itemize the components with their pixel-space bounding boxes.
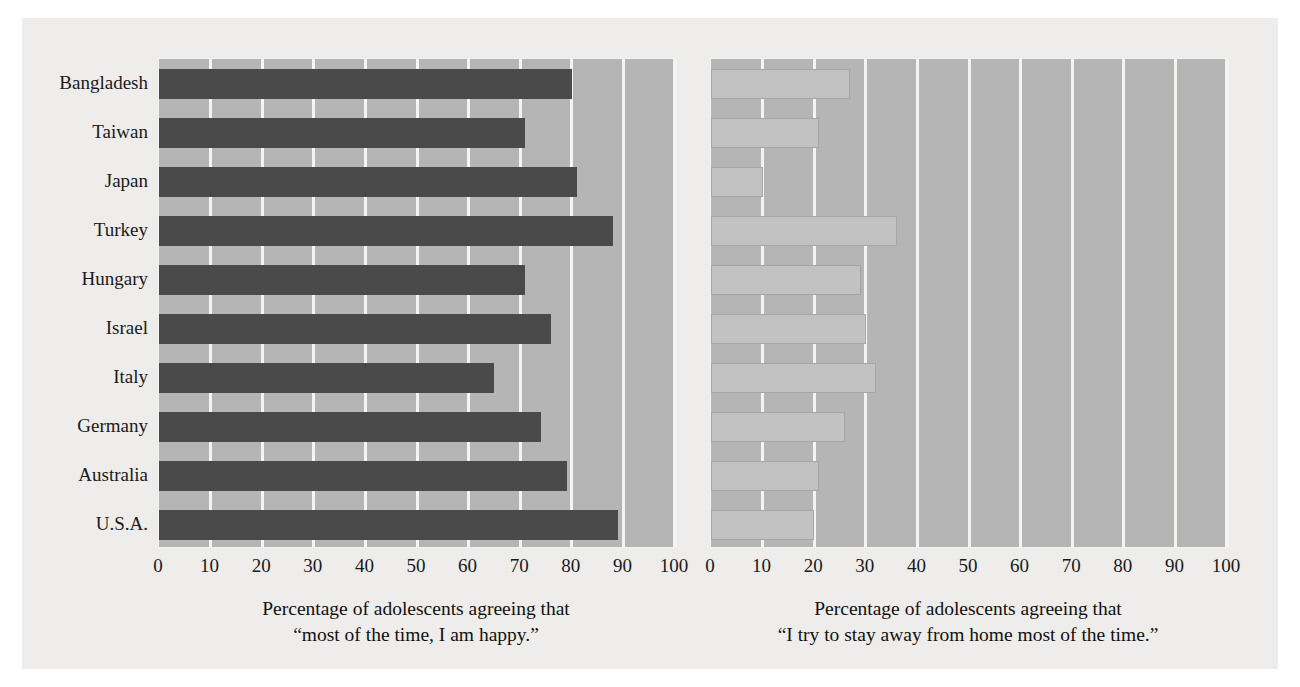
category-label: U.S.A. bbox=[96, 514, 148, 533]
chart-panel-right: 0102030405060708090100 Percentage of ado… bbox=[682, 18, 1278, 669]
bar bbox=[159, 216, 613, 246]
category-label: Germany bbox=[77, 416, 148, 435]
bar bbox=[711, 412, 845, 442]
category-label: Hungary bbox=[82, 269, 148, 288]
caption-line-2: “I try to stay away from home most of th… bbox=[710, 622, 1226, 648]
category-axis-left: BangladeshTaiwanJapanTurkeyHungaryIsrael… bbox=[22, 58, 148, 548]
caption-line-2: “most of the time, I am happy.” bbox=[158, 622, 674, 648]
caption-line-1: Percentage of adolescents agreeing that bbox=[710, 596, 1226, 622]
x-axis-ticks-right: 0102030405060708090100 bbox=[710, 556, 1226, 580]
bar bbox=[711, 167, 763, 197]
bar bbox=[711, 265, 861, 295]
category-label: Taiwan bbox=[92, 122, 148, 141]
x-axis-ticks-left: 0102030405060708090100 bbox=[158, 556, 674, 580]
bar bbox=[159, 118, 525, 148]
figure-background: BangladeshTaiwanJapanTurkeyHungaryIsrael… bbox=[22, 18, 1278, 669]
gridline bbox=[864, 59, 867, 547]
gridline bbox=[1071, 59, 1074, 547]
category-label: Israel bbox=[106, 318, 148, 337]
x-tick-label: 100 bbox=[1196, 556, 1256, 575]
bar bbox=[159, 363, 494, 393]
bar bbox=[159, 265, 525, 295]
x-axis-caption-right: Percentage of adolescents agreeing that … bbox=[710, 596, 1226, 647]
gridline bbox=[1122, 59, 1125, 547]
bar bbox=[159, 412, 541, 442]
caption-line-1: Percentage of adolescents agreeing that bbox=[158, 596, 674, 622]
bar bbox=[159, 167, 577, 197]
category-label: Japan bbox=[105, 171, 148, 190]
category-label: Bangladesh bbox=[59, 73, 148, 92]
gridline bbox=[916, 59, 919, 547]
bar bbox=[159, 314, 551, 344]
gridline bbox=[622, 59, 625, 547]
bar bbox=[711, 363, 876, 393]
bar bbox=[711, 461, 819, 491]
bar bbox=[711, 216, 897, 246]
gridline bbox=[1226, 59, 1229, 547]
gridline bbox=[1174, 59, 1177, 547]
gridline bbox=[674, 59, 677, 547]
plot-area-left bbox=[158, 58, 674, 548]
bar bbox=[159, 510, 618, 540]
gridline bbox=[968, 59, 971, 547]
bar bbox=[711, 118, 819, 148]
category-label: Australia bbox=[78, 465, 148, 484]
figure: BangladeshTaiwanJapanTurkeyHungaryIsrael… bbox=[0, 0, 1300, 687]
gridline bbox=[1019, 59, 1022, 547]
category-label: Turkey bbox=[94, 220, 148, 239]
bar bbox=[711, 510, 814, 540]
chart-panel-left: BangladeshTaiwanJapanTurkeyHungaryIsrael… bbox=[22, 18, 682, 669]
bar bbox=[711, 314, 866, 344]
x-axis-caption-left: Percentage of adolescents agreeing that … bbox=[158, 596, 674, 647]
bar bbox=[159, 461, 567, 491]
plot-area-right bbox=[710, 58, 1226, 548]
bar bbox=[711, 69, 850, 99]
gridline bbox=[570, 59, 573, 547]
bar bbox=[159, 69, 572, 99]
category-label: Italy bbox=[113, 367, 148, 386]
